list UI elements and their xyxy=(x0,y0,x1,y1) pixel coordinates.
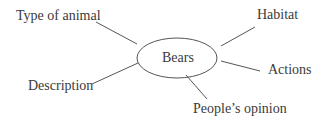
branch-description: Description xyxy=(28,79,93,93)
connector-peoples-opinion xyxy=(186,75,207,99)
connector-description xyxy=(92,63,138,84)
branch-actions: Actions xyxy=(268,63,312,77)
connector-habitat xyxy=(221,27,255,46)
branch-habitat: Habitat xyxy=(257,8,298,22)
branch-type-of-animal: Type of animal xyxy=(16,9,101,23)
branch-peoples-opinion: People’s opinion xyxy=(193,102,287,116)
connector-type-of-animal xyxy=(96,22,137,44)
center-label: Bears xyxy=(162,51,194,65)
connector-actions xyxy=(221,61,260,71)
